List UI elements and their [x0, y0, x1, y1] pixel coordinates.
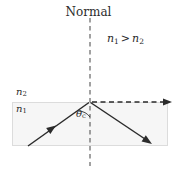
- optics-diagram: Normal n1>n2 n2 n1 θc: [0, 0, 177, 174]
- lower-medium-index-label: n1: [16, 104, 27, 115]
- n2-symbol-subscript: 2: [139, 37, 144, 46]
- upper-medium-index-label: n2: [16, 87, 27, 98]
- lower-medium-subscript: 1: [22, 107, 26, 115]
- theta-subscript: c: [82, 112, 86, 120]
- greater-than-symbol: >: [119, 32, 132, 45]
- critical-angle-label: θc: [76, 109, 86, 120]
- normal-label: Normal: [0, 6, 177, 18]
- upper-medium-subscript: 2: [22, 90, 26, 98]
- refractive-index-comparison-label: n1>n2: [107, 33, 144, 45]
